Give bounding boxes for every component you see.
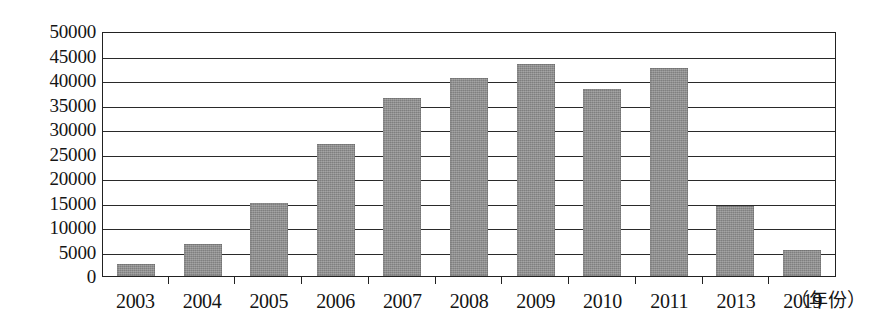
x-tick-cell [502,277,569,285]
bar-slot [502,33,569,276]
bar-2006 [317,144,355,276]
x-tick-label: 2008 [436,286,503,318]
bar-slot [303,33,370,276]
bar-slot [170,33,237,276]
x-tick-label: 2009 [502,286,569,318]
y-tick-label: 50000 [0,22,96,41]
bar-2010 [583,89,621,276]
bar-2007 [383,98,421,276]
x-tick-cell [102,277,169,285]
y-tick-label: 0 [0,267,96,286]
x-tick-cell [169,277,236,285]
y-axis-tick-labels: 5000045000400003500030000250002000015000… [0,32,96,277]
bars-layer [103,33,835,276]
bar-slot [236,33,303,276]
x-tick-cell [569,277,636,285]
x-tick-label: 2004 [169,286,236,318]
x-axis-tick-marks [102,277,836,285]
y-tick-label: 15000 [0,194,96,213]
x-tick-label: 2011 [636,286,703,318]
bar-2003 [117,264,155,276]
x-tick-cell [235,277,302,285]
bar-2005 [250,203,288,277]
y-tick-label: 40000 [0,71,96,90]
x-tick-cell [369,277,436,285]
x-tick-label: 2006 [302,286,369,318]
x-tick-cell [436,277,503,285]
y-tick-label: 30000 [0,120,96,139]
plot-area [102,32,836,277]
y-tick-label: 45000 [0,47,96,66]
bar-slot [702,33,769,276]
bar-2009 [517,64,555,276]
bar-2019 [783,250,821,276]
y-tick-label: 5000 [0,243,96,262]
x-axis-tick-labels: 2003200420052006200720082009201020112013… [102,286,836,318]
bar-slot [569,33,636,276]
y-tick-label: 20000 [0,169,96,188]
x-tick-label: 2013 [703,286,770,318]
x-tick-label: 2005 [235,286,302,318]
x-tick-label: 2007 [369,286,436,318]
bar-2004 [184,244,222,276]
y-tick-label: 35000 [0,96,96,115]
bar-chart: 5000045000400003500030000250002000015000… [0,0,870,328]
y-tick-label: 25000 [0,145,96,164]
x-axis-title: （年份） [790,286,866,316]
bar-slot [369,33,436,276]
bar-slot [103,33,170,276]
bar-slot [635,33,702,276]
bar-2013 [716,206,754,276]
bar-2011 [650,68,688,276]
y-tick-label: 10000 [0,218,96,237]
x-tick-label: 2010 [569,286,636,318]
bar-slot [768,33,835,276]
x-tick-cell [636,277,703,285]
bar-2008 [450,78,488,276]
bar-slot [436,33,503,276]
x-tick-cell [769,277,836,285]
x-tick-label: 2003 [102,286,169,318]
x-tick-cell [703,277,770,285]
x-tick-cell [302,277,369,285]
